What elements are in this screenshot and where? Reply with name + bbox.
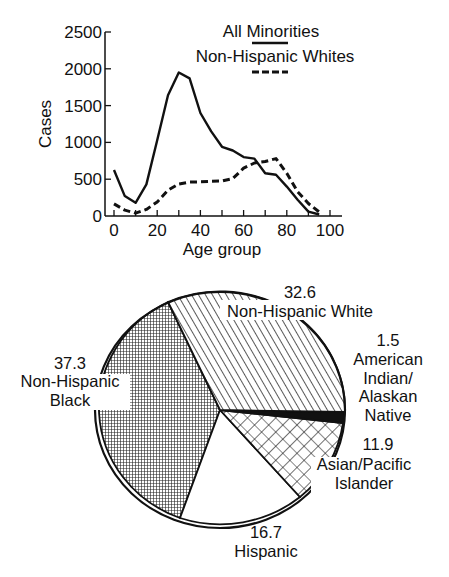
y-tick-label: 2500 — [64, 23, 102, 42]
pie-category: Indian/ — [363, 369, 413, 387]
pie-chart: 32.6 Non-Hispanic White 1.5 American Ind… — [14, 283, 429, 560]
pie-value: 16.7 — [250, 523, 282, 541]
x-tick-label: 60 — [234, 221, 253, 240]
y-tick-labels: 2500 2000 1500 1000 500 0 — [64, 23, 102, 226]
y-tick-label: 2000 — [64, 60, 102, 79]
x-tick-label: 40 — [191, 221, 210, 240]
series-all-minorities-line — [114, 73, 319, 215]
pie-value: 1.5 — [377, 331, 400, 349]
x-tick-labels: 0 20 40 60 80 100 — [109, 221, 344, 240]
x-tick-label: 0 — [109, 221, 118, 240]
line-chart: 2500 2000 1500 1000 500 0 0 20 40 60 — [36, 22, 354, 259]
y-tick-label: 500 — [74, 170, 102, 189]
x-tick-label: 80 — [277, 221, 296, 240]
pie-category: Hispanic — [234, 542, 297, 560]
y-tick-label: 1500 — [64, 97, 102, 116]
figure: 2500 2000 1500 1000 500 0 0 20 40 60 — [0, 0, 449, 577]
y-tick-label: 1000 — [64, 133, 102, 152]
pie-category: Alaskan — [359, 387, 418, 405]
y-ticks — [105, 32, 111, 179]
pie-value: 37.3 — [54, 354, 86, 372]
pie-label-non-hispanic-white: 32.6 Non-Hispanic White — [220, 283, 382, 320]
pie-category: Non-Hispanic White — [227, 302, 373, 320]
pie-category: Non-Hispanic — [20, 372, 119, 390]
pie-label-hispanic: 16.7 Hispanic — [234, 523, 297, 560]
x-tick-label: 20 — [148, 221, 167, 240]
pie-category: Islander — [335, 474, 394, 492]
pie-value: 32.6 — [284, 283, 316, 301]
pie-label-american-indian-alaskan-native: 1.5 American Indian/ Alaskan Native — [353, 331, 423, 424]
pie-category: American — [353, 350, 423, 368]
legend-label-all-minorities: All Minorities — [223, 22, 319, 41]
legend: All Minorities Non-Hispanic Whites — [196, 22, 355, 72]
x-tick-label: 100 — [316, 221, 344, 240]
x-axis-label: Age group — [183, 240, 261, 259]
y-tick-label: 0 — [93, 207, 102, 226]
y-axis-label: Cases — [36, 100, 55, 148]
pie-category: Black — [50, 391, 91, 409]
legend-label-non-hispanic-whites: Non-Hispanic Whites — [196, 47, 355, 66]
pie-category: Asian/Pacific — [317, 455, 411, 473]
pie-value: 11.9 — [363, 435, 394, 453]
pie-category: Native — [365, 406, 412, 424]
